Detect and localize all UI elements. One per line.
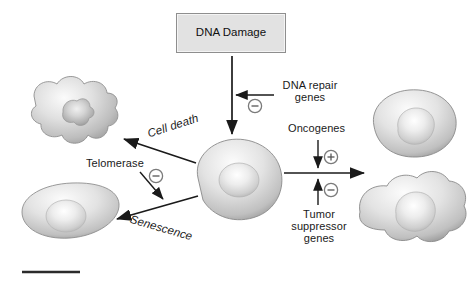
diagram-canvas: DNA Damage DNA repair genes Oncogenes Tu… xyxy=(0,0,470,284)
dna-damage-box: DNA Damage xyxy=(176,13,286,53)
label-dna-repair-genes: DNA repair genes xyxy=(266,80,354,104)
arrow-senescence xyxy=(117,196,198,219)
dna-damage-label: DNA Damage xyxy=(177,26,285,38)
central-cell xyxy=(197,139,282,220)
inhibition-tumor-suppressor xyxy=(318,179,338,205)
proliferating-cell-lower xyxy=(360,172,467,242)
label-oncogenes: Oncogenes xyxy=(288,123,345,135)
senescent-cell xyxy=(22,183,119,238)
label-tumor-suppressor-genes: Tumor suppressor genes xyxy=(282,209,356,245)
label-telomerase: Telomerase xyxy=(86,158,144,170)
proliferating-cell-upper xyxy=(373,90,456,157)
apoptotic-cell xyxy=(31,77,117,144)
activation-oncogenes xyxy=(318,140,338,168)
inhibition-telomerase xyxy=(140,169,163,199)
